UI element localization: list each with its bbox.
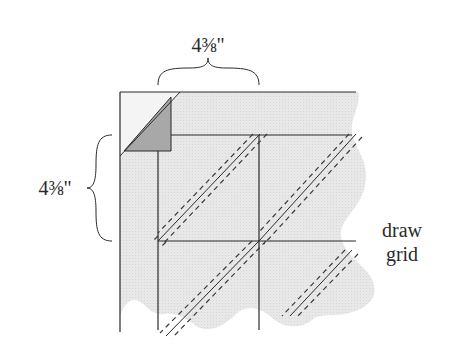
- top-dimension-label: 4⅜": [191, 34, 224, 56]
- instruction-draw: draw: [382, 219, 423, 241]
- left-dimension-label: 4⅜": [38, 177, 71, 199]
- left-brace: [87, 135, 112, 241]
- top-brace: [158, 58, 259, 85]
- instruction-grid: grid: [386, 243, 418, 266]
- quilt-grid-diagram: 4⅜" 4⅜" draw grid: [0, 0, 452, 362]
